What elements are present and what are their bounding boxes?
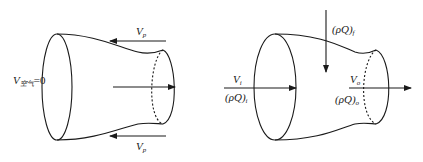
label-v-in: Vi (233, 74, 242, 87)
right-control-volume (224, 10, 411, 140)
vp-bottom-subscript: p (143, 146, 147, 154)
mass-out-subscript: o (356, 99, 360, 107)
right-inlet-ellipse (254, 34, 296, 140)
mass-fuel-symbol: (ρQ) (332, 23, 353, 35)
v-out-subscript: o (357, 79, 361, 87)
left-inlet-ellipse (42, 34, 72, 140)
v-out-symbol: V (350, 73, 357, 85)
label-mass-fuel: (ρQ)f (332, 24, 355, 37)
left-upper-wall (57, 34, 163, 53)
v-in-subscript: i (240, 79, 242, 87)
right-lower-wall (275, 123, 376, 140)
vp-top-symbol: V (136, 25, 143, 37)
mass-fuel-subscript: f (353, 29, 355, 37)
mass-out-symbol: (ρQ) (335, 93, 356, 105)
v-in-symbol: V (233, 73, 240, 85)
left-control-volume (42, 34, 175, 140)
v-air-subscript: 空气 (20, 80, 34, 88)
label-mass-in: (ρQ)i (225, 92, 248, 105)
label-v-out: Vo (350, 74, 360, 87)
vp-top-subscript: p (143, 31, 147, 39)
v-air-suffix: =0 (34, 74, 46, 86)
label-vp-top: Vp (136, 26, 146, 39)
label-v-air: V空气=0 (13, 75, 45, 88)
mass-in-subscript: i (246, 97, 248, 105)
vp-bottom-symbol: V (136, 140, 143, 152)
right-exit-rim-front (376, 50, 389, 124)
v-air-symbol: V (13, 74, 20, 86)
label-vp-bottom: Vp (136, 141, 146, 154)
left-lower-wall (57, 123, 163, 140)
right-exit-rim-back (364, 50, 376, 124)
label-mass-out: (ρQ)o (335, 94, 359, 107)
mass-in-symbol: (ρQ) (225, 91, 246, 103)
